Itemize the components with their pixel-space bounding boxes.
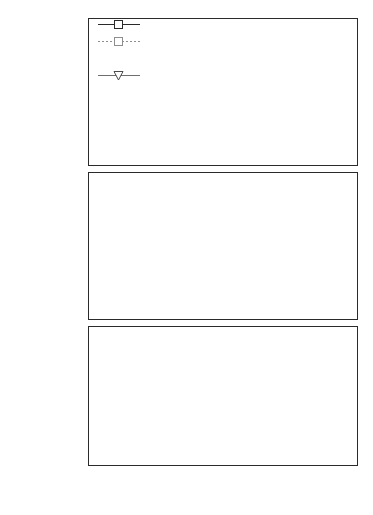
legend-marker-none (96, 50, 142, 67)
panel-void-propagation (88, 172, 358, 320)
figure-void-volume-fractions (0, 0, 373, 515)
legend-item-2[interactable] (96, 50, 346, 67)
legend-marker-square-solid (96, 16, 142, 33)
legend-item-1[interactable] (96, 33, 346, 50)
legend-item-3[interactable] (96, 67, 346, 84)
plot-area-panel-2 (89, 173, 357, 319)
legend-marker-triangle-down (96, 67, 142, 84)
legend (96, 16, 346, 84)
panel-void-aggregation (88, 326, 358, 466)
legend-item-0[interactable] (96, 16, 346, 33)
legend-marker-square-dotted (96, 33, 142, 50)
plot-area-panel-3 (89, 327, 357, 465)
